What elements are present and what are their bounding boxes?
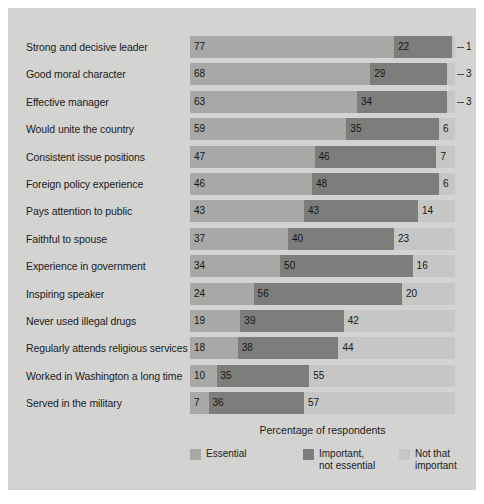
bar-segment-essential[interactable]: 63 xyxy=(190,91,357,113)
bar-segment-value: 40 xyxy=(292,228,303,250)
bar-segment-value: 34 xyxy=(194,255,205,277)
bar-segment-not-that-important[interactable] xyxy=(447,63,455,85)
stacked-bar: 245620 xyxy=(190,283,455,305)
bar-segment-value: 34 xyxy=(361,91,372,113)
bar-segment-not-that-important[interactable] xyxy=(452,36,455,58)
bar-segment-not-that-important[interactable]: 23 xyxy=(394,228,455,250)
bar-segment-not-that-important[interactable]: 6 xyxy=(439,173,455,195)
bar-segment-value: 43 xyxy=(194,200,205,222)
legend-label-essential: Essential xyxy=(206,448,247,460)
chart-row: Regularly attends religious services1838… xyxy=(8,337,476,359)
bar-segment-not-that-important[interactable]: 44 xyxy=(338,337,455,359)
bar-segment-essential[interactable]: 46 xyxy=(190,173,312,195)
bar-segment-important-not-essential[interactable]: 34 xyxy=(357,91,447,113)
chart-row: Inspiring speaker245620 xyxy=(8,283,476,305)
chart-row: Consistent issue positions47467 xyxy=(8,146,476,168)
stacked-bar: 374023 xyxy=(190,228,455,250)
stacked-bar: 434314 xyxy=(190,200,455,222)
legend-item-essential[interactable]: Essential xyxy=(190,448,247,460)
bar-segment-value: 39 xyxy=(244,310,255,332)
chart-row: Effective manager63343 xyxy=(8,91,476,113)
bar-segment-value: 48 xyxy=(316,173,327,195)
bar-segment-value: 24 xyxy=(194,283,205,305)
legend-swatch-not-that-important xyxy=(399,449,410,460)
bar-segment-essential[interactable]: 59 xyxy=(190,118,346,140)
bar-segment-important-not-essential[interactable]: 56 xyxy=(254,283,402,305)
row-label: Faithful to spouse xyxy=(26,228,188,250)
stacked-bar-chart: Strong and decisive leader77221Good mora… xyxy=(8,8,476,490)
bar-segment-value: 42 xyxy=(348,310,359,332)
bar-segment-important-not-essential[interactable]: 36 xyxy=(209,392,304,414)
bar-segment-value: 38 xyxy=(242,337,253,359)
chart-figure: Strong and decisive leader77221Good mora… xyxy=(8,8,476,490)
row-label: Regularly attends religious services xyxy=(26,337,188,359)
bar-segment-value: 23 xyxy=(398,228,409,250)
row-label: Pays attention to public xyxy=(26,200,188,222)
bar-segment-important-not-essential[interactable]: 22 xyxy=(394,36,452,58)
bar-segment-essential[interactable]: 10 xyxy=(190,365,217,387)
bar-segment-value: 35 xyxy=(221,365,232,387)
bar-segment-value: 46 xyxy=(194,173,205,195)
bar-segment-value: 36 xyxy=(213,392,224,414)
bar-segment-essential[interactable]: 43 xyxy=(190,200,304,222)
bar-segment-value-callout: 3 xyxy=(457,63,472,85)
bar-segment-important-not-essential[interactable]: 43 xyxy=(304,200,418,222)
chart-row: Pays attention to public434314 xyxy=(8,200,476,222)
bar-segment-not-that-important[interactable] xyxy=(447,91,455,113)
legend-label-not-that-important: Not that important xyxy=(415,448,457,472)
stacked-bar: 59356 xyxy=(190,118,455,140)
bar-segment-not-that-important[interactable]: 55 xyxy=(309,365,455,387)
bar-segment-important-not-essential[interactable]: 46 xyxy=(315,146,437,168)
bar-segment-value: 63 xyxy=(194,91,205,113)
stacked-bar: 46486 xyxy=(190,173,455,195)
stacked-bar: 183844 xyxy=(190,337,455,359)
bar-segment-value: 20 xyxy=(406,283,417,305)
bar-segment-not-that-important[interactable]: 14 xyxy=(418,200,455,222)
bar-segment-value: 7 xyxy=(194,392,200,414)
bar-segment-important-not-essential[interactable]: 39 xyxy=(240,310,343,332)
bar-segment-not-that-important[interactable]: 57 xyxy=(304,392,455,414)
bar-segment-essential[interactable]: 19 xyxy=(190,310,240,332)
bar-segment-important-not-essential[interactable]: 40 xyxy=(288,228,394,250)
bar-segment-essential[interactable]: 47 xyxy=(190,146,315,168)
legend-item-important-not-essential[interactable]: Important, not essential xyxy=(303,448,375,472)
bar-segment-not-that-important[interactable]: 7 xyxy=(436,146,455,168)
row-label: Experience in government xyxy=(26,255,188,277)
stacked-bar: 6334 xyxy=(190,91,455,113)
bar-segment-value: 22 xyxy=(398,36,409,58)
stacked-bar: 103555 xyxy=(190,365,455,387)
bar-segment-value-callout: 1 xyxy=(457,36,472,58)
chart-row: Served in the military73657 xyxy=(8,392,476,414)
bar-segment-important-not-essential[interactable]: 29 xyxy=(370,63,447,85)
bar-segment-essential[interactable]: 37 xyxy=(190,228,288,250)
bar-segment-important-not-essential[interactable]: 35 xyxy=(217,365,310,387)
legend-label-important-not-essential: Important, not essential xyxy=(319,448,375,472)
bar-segment-essential[interactable]: 7 xyxy=(190,392,209,414)
stacked-bar: 47467 xyxy=(190,146,455,168)
bar-segment-not-that-important[interactable]: 6 xyxy=(439,118,455,140)
bar-segment-value: 46 xyxy=(319,146,330,168)
row-label: Would unite the country xyxy=(26,118,188,140)
bar-segment-not-that-important[interactable]: 20 xyxy=(402,283,455,305)
bar-segment-value: 55 xyxy=(313,365,324,387)
bar-segment-value: 50 xyxy=(284,255,295,277)
bar-segment-important-not-essential[interactable]: 48 xyxy=(312,173,439,195)
bar-segment-value: 18 xyxy=(194,337,205,359)
bar-segment-essential[interactable]: 18 xyxy=(190,337,238,359)
bar-segment-essential[interactable]: 34 xyxy=(190,255,280,277)
legend-item-not-that-important[interactable]: Not that important xyxy=(399,448,457,472)
bar-segment-essential[interactable]: 77 xyxy=(190,36,394,58)
bar-segment-important-not-essential[interactable]: 50 xyxy=(280,255,413,277)
bar-segment-not-that-important[interactable]: 16 xyxy=(413,255,455,277)
row-label: Strong and decisive leader xyxy=(26,36,188,58)
bar-segment-important-not-essential[interactable]: 35 xyxy=(346,118,439,140)
bar-segment-important-not-essential[interactable]: 38 xyxy=(238,337,339,359)
stacked-bar: 7722 xyxy=(190,36,455,58)
bar-segment-not-that-important[interactable]: 42 xyxy=(344,310,455,332)
bar-segment-essential[interactable]: 24 xyxy=(190,283,254,305)
bar-segment-value: 6 xyxy=(443,118,449,140)
row-label: Worked in Washington a long time xyxy=(26,365,188,387)
bar-segment-value: 37 xyxy=(194,228,205,250)
bar-segment-essential[interactable]: 68 xyxy=(190,63,370,85)
bar-segment-value: 59 xyxy=(194,118,205,140)
